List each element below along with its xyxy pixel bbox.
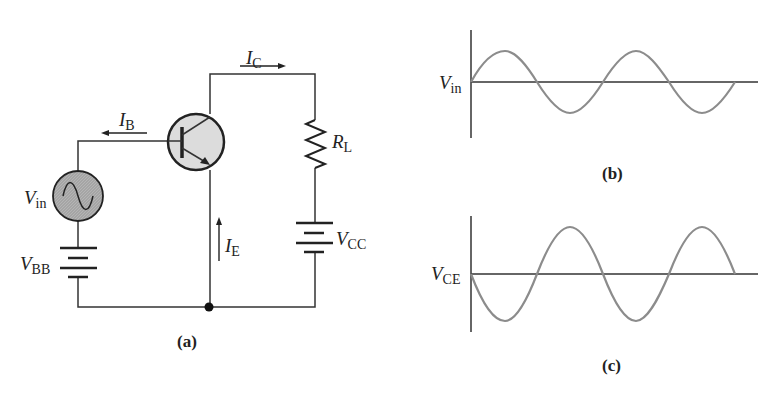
ground-junction-dot <box>205 303 214 312</box>
label-ie: IE <box>225 236 240 255</box>
label-rl: RL <box>332 132 352 151</box>
vce-plot <box>471 216 758 332</box>
vce-axis-label-sub: CE <box>443 272 461 287</box>
figure-canvas <box>0 0 776 396</box>
battery-vcc <box>296 223 333 252</box>
vin-plot <box>471 30 758 138</box>
caption-a: (a) <box>177 332 197 352</box>
vin-axis-label-sub: in <box>451 81 462 96</box>
label-vcc: VCC <box>336 229 366 248</box>
label-vin: Vin <box>24 188 47 207</box>
label-rl-main: R <box>332 131 344 152</box>
label-vbb-sub: BB <box>32 262 51 277</box>
label-vbb: VBB <box>20 254 50 273</box>
label-vbb-main: V <box>20 253 32 274</box>
wires <box>78 74 315 307</box>
battery-vbb <box>60 248 97 277</box>
resistor-rl <box>306 120 325 168</box>
label-rl-sub: L <box>344 140 353 155</box>
label-ib: IB <box>119 110 135 129</box>
label-ic-sub: C <box>252 56 261 71</box>
label-vin-sub: in <box>36 196 47 211</box>
label-vcc-sub: CC <box>348 237 367 252</box>
vce-axis-label: VCE <box>431 264 461 283</box>
transistor-npn <box>168 114 224 170</box>
label-ic: IC <box>246 48 262 67</box>
label-vcc-main: V <box>336 228 348 249</box>
vin-axis-label-main: V <box>439 72 451 93</box>
caption-c: (c) <box>602 356 621 376</box>
vin-axis-label: Vin <box>439 73 462 92</box>
label-ie-sub: E <box>231 244 240 259</box>
ac-source-vin <box>53 171 103 221</box>
caption-b: (b) <box>602 164 623 184</box>
label-ib-sub: B <box>125 118 134 133</box>
label-vin-main: V <box>24 187 36 208</box>
circuit-diagram <box>53 63 333 312</box>
vce-axis-label-main: V <box>431 263 443 284</box>
